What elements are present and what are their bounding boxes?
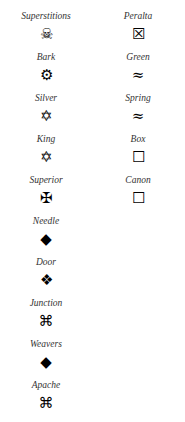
legend-entry-bark: Bark ⚙ bbox=[0, 51, 92, 83]
legend-label: Needle bbox=[0, 215, 92, 227]
command-key-icon: ⌘ bbox=[38, 395, 54, 411]
four-diamonds-icon: ❖ bbox=[38, 272, 54, 288]
water-waves-icon: ≈ bbox=[130, 67, 146, 83]
legend-entry-king: King ✡ bbox=[0, 133, 92, 165]
legend-label: Peralta bbox=[92, 10, 184, 22]
legend-entry-superior: Superior ✠ bbox=[0, 174, 92, 206]
legend-entry-peralta: Peralta ☒ bbox=[92, 10, 184, 42]
black-diamond-icon: ◆ bbox=[38, 354, 54, 370]
legend-label: Silver bbox=[0, 92, 92, 104]
legend-entry-superstitions: Superstitions ☠ bbox=[0, 10, 92, 42]
square-outline-icon: ☐ bbox=[130, 149, 146, 165]
legend-entry-weavers: Weavers ◆ bbox=[0, 338, 92, 370]
legend-entry-needle: Needle ◆ bbox=[0, 215, 92, 247]
legend-label: Apache bbox=[0, 379, 92, 391]
black-diamond-icon: ◆ bbox=[38, 231, 54, 247]
legend-entry-green: Green ≈ bbox=[92, 51, 184, 83]
legend-entry-canon: Canon ☐ bbox=[92, 174, 184, 206]
water-waves-icon: ≈ bbox=[130, 108, 146, 124]
legend-entry-apache: Apache ⌘ bbox=[0, 379, 92, 411]
skull-crossbones-icon: ☠ bbox=[38, 26, 54, 42]
legend-label: Spring bbox=[92, 92, 184, 104]
legend-label: Bark bbox=[0, 51, 92, 63]
legend-label: Weavers bbox=[0, 338, 92, 350]
maltese-cross-icon: ✠ bbox=[38, 190, 54, 206]
legend-entry-door: Door ❖ bbox=[0, 256, 92, 288]
legend-label: Canon bbox=[92, 174, 184, 186]
gear-outline-icon: ⚙ bbox=[38, 67, 54, 83]
x-in-box-icon: ☒ bbox=[130, 26, 146, 42]
legend-label: Junction bbox=[0, 297, 92, 309]
command-key-icon: ⌘ bbox=[38, 313, 54, 329]
legend-label: Superstitions bbox=[0, 10, 92, 22]
legend-label: Green bbox=[92, 51, 184, 63]
legend-label: Box bbox=[92, 133, 184, 145]
square-outline-icon: ☐ bbox=[130, 190, 146, 206]
star-of-david-icon: ✡ bbox=[38, 149, 54, 165]
star-of-david-icon: ✡ bbox=[38, 108, 54, 124]
legend-entry-box: Box ☐ bbox=[92, 133, 184, 165]
legend-entry-junction: Junction ⌘ bbox=[0, 297, 92, 329]
legend-label: Superior bbox=[0, 174, 92, 186]
legend-label: Door bbox=[0, 256, 92, 268]
legend-label: King bbox=[0, 133, 92, 145]
legend-entry-silver: Silver ✡ bbox=[0, 92, 92, 124]
legend-entry-spring: Spring ≈ bbox=[92, 92, 184, 124]
